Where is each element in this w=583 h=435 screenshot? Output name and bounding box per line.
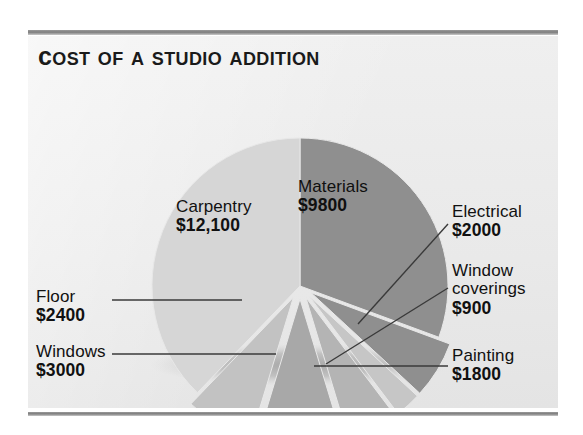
slice-label-window-coverings-value: $900 [452,299,526,318]
slice-label-electrical: Electrical $2000 [452,203,522,240]
figure-page: Cost of a Studio Addition [0,0,583,435]
pie-slice-materials [300,138,448,337]
slice-label-floor-name: Floor [36,288,85,306]
slice-label-painting: Painting $1800 [452,347,514,384]
slice-label-windows: Windows $3000 [36,343,106,380]
slice-label-electrical-value: $2000 [452,221,522,240]
slice-label-painting-name: Painting [452,347,514,365]
slice-label-window-coverings-name-line1: Window [452,262,526,280]
slice-label-painting-value: $1800 [452,365,514,384]
top-divider-rule [28,30,558,35]
slice-label-materials: Materials $9800 [298,178,368,215]
slice-label-window-coverings-name-line2: coverings [452,280,526,298]
slice-label-carpentry: Carpentry $12,100 [176,198,252,235]
slice-label-window-coverings: Window coverings $900 [452,262,526,318]
slice-label-materials-value: $9800 [298,196,368,215]
slice-label-carpentry-value: $12,100 [176,216,252,235]
bottom-divider-rule [28,412,558,416]
slice-label-floor-value: $2400 [36,306,85,325]
slice-label-windows-name: Windows [36,343,106,361]
slice-label-carpentry-name: Carpentry [176,198,252,216]
slice-label-electrical-name: Electrical [452,203,522,221]
slice-label-windows-value: $3000 [36,361,106,380]
slice-label-floor: Floor $2400 [36,288,85,325]
slice-label-materials-name: Materials [298,178,368,196]
